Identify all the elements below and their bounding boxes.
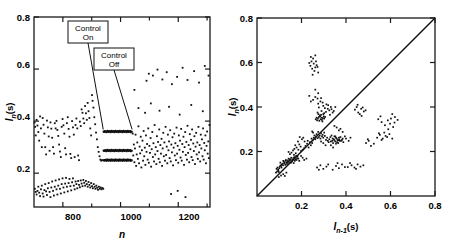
data-point: [320, 164, 322, 166]
data-point: [332, 147, 334, 149]
data-point: [327, 164, 329, 166]
data-point: [294, 144, 296, 146]
data-point: [182, 151, 184, 153]
data-point: [311, 131, 313, 133]
data-point: [157, 69, 159, 71]
data-point: [142, 160, 144, 162]
data-point: [76, 187, 78, 189]
data-point: [61, 126, 63, 128]
data-point: [301, 138, 303, 140]
data-point: [69, 136, 71, 138]
data-point: [143, 130, 145, 132]
data-point: [294, 148, 296, 150]
data-point: [34, 122, 36, 124]
data-point: [187, 152, 189, 154]
data-point: [314, 89, 316, 91]
data-point: [140, 167, 142, 169]
data-point: [198, 82, 200, 84]
data-point: [50, 187, 52, 189]
data-point: [332, 169, 334, 171]
data-point: [337, 142, 339, 144]
data-point: [310, 144, 312, 146]
data-point: [294, 156, 296, 158]
data-point: [141, 149, 143, 151]
data-point: [144, 147, 146, 149]
data-point: [341, 139, 343, 141]
data-point: [316, 167, 318, 169]
data-point: [147, 128, 149, 130]
data-point: [321, 110, 323, 112]
data-point: [196, 154, 198, 156]
data-point: [181, 160, 183, 162]
data-point: [82, 179, 84, 181]
ytick-label: 0.4: [240, 102, 254, 113]
data-point: [88, 181, 90, 183]
data-point: [338, 138, 340, 140]
data-point: [167, 134, 169, 136]
data-point: [55, 180, 57, 182]
data-point: [135, 165, 137, 167]
data-point: [43, 196, 45, 198]
data-point: [34, 126, 36, 128]
data-point: [207, 141, 209, 143]
data-point: [151, 131, 153, 133]
data-point: [95, 185, 97, 187]
data-point: [39, 195, 41, 197]
data-point: [177, 190, 179, 192]
data-point: [44, 183, 46, 185]
data-point: [392, 126, 394, 128]
data-point: [381, 121, 383, 123]
data-point: [191, 156, 193, 158]
data-point: [316, 117, 318, 119]
data-point: [290, 157, 292, 159]
data-point: [199, 161, 201, 163]
ytick-label: 0.6: [17, 59, 30, 70]
data-point: [351, 164, 353, 166]
svg-text:In(s): In(s): [227, 98, 240, 117]
data-point: [79, 186, 81, 188]
data-point: [280, 175, 282, 177]
data-point: [80, 125, 82, 127]
data-point: [314, 55, 316, 57]
data-point: [43, 189, 45, 191]
data-point: [36, 194, 38, 196]
data-point: [146, 80, 148, 82]
data-point: [290, 162, 292, 164]
data-point: [48, 136, 50, 138]
data-point: [50, 196, 52, 198]
data-point: [317, 66, 319, 68]
data-point: [312, 99, 314, 101]
data-point: [98, 186, 100, 188]
data-point: [138, 162, 140, 164]
timeseries-x-ticklabels: 800 1000 1200: [65, 211, 200, 222]
data-point: [86, 183, 88, 185]
data-point: [46, 120, 48, 122]
identity-line: [257, 18, 435, 196]
data-point: [184, 131, 186, 133]
data-point: [93, 116, 95, 118]
data-point: [357, 104, 359, 106]
data-point: [373, 143, 375, 145]
data-point: [54, 122, 56, 124]
data-point: [93, 183, 95, 185]
data-point: [184, 146, 186, 148]
data-point: [285, 160, 287, 162]
timeseries-frame: [34, 17, 210, 207]
data-point: [63, 124, 65, 126]
data-point: [139, 146, 141, 148]
data-point: [58, 179, 60, 181]
data-point: [89, 117, 91, 119]
data-point: [286, 172, 288, 174]
data-point: [65, 177, 67, 179]
data-point: [76, 128, 78, 130]
data-point: [42, 117, 44, 119]
data-point: [193, 150, 195, 152]
data-point: [61, 183, 63, 185]
data-point: [328, 109, 330, 111]
data-point: [350, 137, 352, 139]
data-point: [96, 138, 98, 140]
data-point: [169, 129, 171, 131]
data-point: [310, 65, 312, 67]
data-point: [62, 118, 64, 120]
data-point: [83, 182, 85, 184]
